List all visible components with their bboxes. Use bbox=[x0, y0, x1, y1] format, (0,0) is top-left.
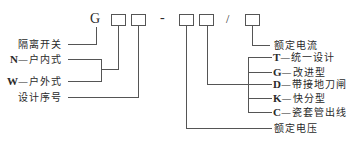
slash-separator: / bbox=[226, 12, 229, 26]
code-slot-5 bbox=[245, 14, 260, 26]
label-rated-voltage: 额定电压 bbox=[274, 122, 318, 135]
code-slot-4 bbox=[199, 14, 214, 26]
label-fast-break: K—快分型 bbox=[273, 92, 326, 105]
label-isolating-switch: 隔离开关 bbox=[0, 38, 62, 51]
code-slot-3 bbox=[179, 14, 194, 26]
label-porcelain-bushing-outlet: C—瓷套管出线 bbox=[273, 106, 347, 119]
label-indoor: N—户内式 bbox=[0, 53, 62, 66]
label-outdoor: W—户外式 bbox=[0, 75, 62, 88]
code-slot-2 bbox=[131, 14, 146, 26]
dash-separator: - bbox=[160, 11, 165, 25]
label-with-earthing-switch: D—带接地刀闸 bbox=[273, 78, 347, 91]
prefix-letter: G bbox=[90, 12, 100, 26]
label-unified-design: T—统一设计 bbox=[273, 51, 335, 64]
label-design-serial: 设计序号 bbox=[0, 91, 62, 104]
code-slot-1 bbox=[111, 14, 126, 26]
